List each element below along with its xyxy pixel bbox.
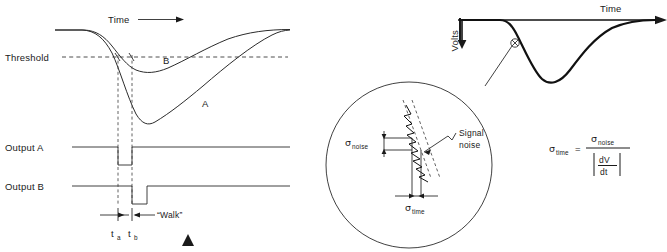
edge-guide-left xyxy=(403,100,431,178)
time-arrow-left xyxy=(138,17,184,23)
time-label-left: Time xyxy=(108,14,130,25)
output-a-label: Output A xyxy=(5,142,44,153)
walk-label: “Walk” xyxy=(157,210,182,220)
sigma-time-dimension xyxy=(395,194,438,199)
pulse-curve-b xyxy=(55,30,290,73)
walk-diagram: Time Threshold A B Output A Output B xyxy=(5,14,290,246)
time-label-right: Time xyxy=(600,3,622,14)
magnified-detail-circle xyxy=(326,82,492,248)
pulse-label-b: B xyxy=(163,55,170,66)
formula-lhs-symbol: σ xyxy=(549,143,555,154)
magnifier-leader-line xyxy=(485,46,512,86)
signal-noise-label-line2: noise xyxy=(459,140,480,150)
time-marker-tb: t b xyxy=(128,228,138,241)
threshold-label: Threshold xyxy=(5,52,49,63)
callout-point-marker xyxy=(511,39,519,47)
sigma-noise-symbol: σ xyxy=(345,137,351,148)
tb-base: t xyxy=(128,228,131,239)
volts-label: Volts xyxy=(449,30,460,52)
sigma-time-label: σ time xyxy=(405,202,425,215)
formula-numerator-symbol: σ xyxy=(591,133,597,144)
formula-lhs-sub: time xyxy=(556,149,569,156)
footer-triangle-marker xyxy=(182,234,194,246)
formula-dt: dt xyxy=(600,167,608,177)
pulse-label-a: A xyxy=(202,98,209,109)
signal-noise-leader xyxy=(424,133,456,155)
sigma-noise-sub: noise xyxy=(352,143,369,150)
output-b-label: Output B xyxy=(5,181,44,192)
sigma-noise-label: σ noise xyxy=(345,137,369,150)
output-a-trace xyxy=(72,147,290,165)
formula-equals: = xyxy=(575,143,581,154)
figure-root: Time Threshold A B Output A Output B xyxy=(0,0,667,252)
jitter-diagram: Time Volts xyxy=(326,3,667,248)
formula-dv: dV xyxy=(599,155,610,165)
edge-guide-right xyxy=(412,100,440,178)
sigma-time-sub: time xyxy=(412,208,425,215)
signal-noise-label-line1: Signal xyxy=(459,128,484,138)
jitter-pulse-curve xyxy=(462,20,655,83)
pulse-curve-a xyxy=(55,30,290,124)
sigma-time-symbol: σ xyxy=(405,202,411,213)
sigma-time-equation: σ time = σ noise dV dt xyxy=(549,133,630,177)
figure-canvas: Time Threshold A B Output A Output B xyxy=(0,0,667,252)
ta-sub: a xyxy=(117,234,121,241)
formula-numerator-sub: noise xyxy=(598,139,615,146)
output-b-trace xyxy=(72,186,290,204)
ta-base: t xyxy=(111,228,114,239)
tb-sub: b xyxy=(134,234,138,241)
signal-noise-trace xyxy=(404,105,428,182)
time-marker-ta: t a xyxy=(111,228,121,241)
walk-dimension xyxy=(100,208,155,221)
